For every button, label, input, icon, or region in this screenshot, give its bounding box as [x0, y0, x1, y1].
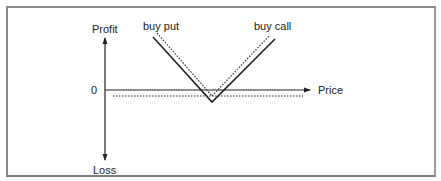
buy-call-dotted-line [212, 35, 270, 96]
payoff-diagram: Profit Loss 0 Price buy put buy call [0, 0, 441, 181]
buy-call-label: buy call [254, 20, 291, 32]
x-axis-price-label: Price [318, 84, 343, 96]
y-axis-loss-label: Loss [93, 164, 117, 176]
y-axis-profit-label: Profit [92, 23, 118, 35]
straddle-solid-line [153, 37, 275, 102]
origin-zero-label: 0 [91, 84, 97, 96]
buy-put-dotted-line [157, 33, 212, 96]
buy-put-label: buy put [143, 20, 179, 32]
